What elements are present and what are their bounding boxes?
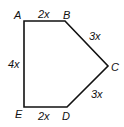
- pentagon-diagram: A B C D E 2x 3x 3x 2x 4x: [0, 0, 124, 127]
- vertex-label-d: D: [62, 110, 70, 122]
- side-label-ab: 2x: [37, 8, 50, 20]
- side-label-bc: 3x: [89, 30, 101, 42]
- side-label-ea: 4x: [8, 58, 20, 70]
- vertex-label-b: B: [63, 9, 70, 21]
- vertex-label-c: C: [111, 61, 119, 73]
- vertex-label-e: E: [15, 108, 23, 120]
- side-label-cd: 3x: [91, 88, 103, 100]
- side-label-de: 2x: [37, 110, 50, 122]
- vertex-label-a: A: [13, 9, 21, 21]
